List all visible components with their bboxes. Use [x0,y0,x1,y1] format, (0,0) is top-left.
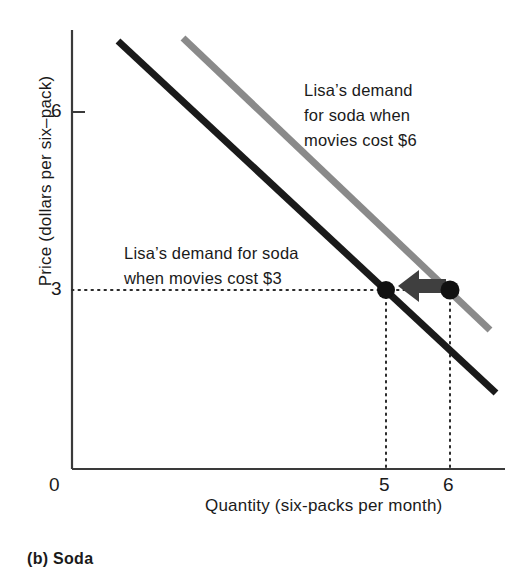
origin-label: 0 [49,474,60,496]
annotation-demand-movies-3: Lisa’s demand for soda when movies cost … [124,241,299,291]
y-tick-label-6: 6 [51,100,62,122]
point-marker-q6 [441,281,460,300]
y-tick-label-3: 3 [51,278,62,300]
annotation-demand-movies-6: Lisa’s demand for soda when movies cost … [304,78,417,153]
shift-arrow-left [398,270,446,302]
x-tick-label-6: 6 [443,474,454,496]
panel-caption: (b) Soda [27,550,93,568]
point-marker-q5 [377,281,395,299]
x-axis-title: Quantity (six-packs per month) [205,496,442,516]
demand-curve-figure: Price (dollars per six–pack) Quantity (s… [0,0,520,581]
x-tick-label-5: 5 [379,474,390,496]
